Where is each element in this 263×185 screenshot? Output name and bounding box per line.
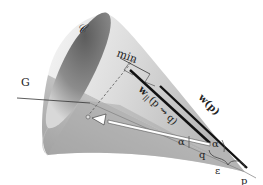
label-epsilon: ε xyxy=(215,165,220,176)
label-p: p xyxy=(241,175,247,185)
label-q: q xyxy=(199,149,206,160)
label-g: G xyxy=(21,76,30,89)
label-alpha-outer: α xyxy=(212,138,219,149)
label-alpha-inner: α xyxy=(178,136,185,147)
foot-point xyxy=(86,115,90,119)
label-w-p: w(p) xyxy=(196,91,222,117)
cone-diagram: G 𝒞 min w(p) w || (p ⇝ q) α α q ε p xyxy=(0,0,263,185)
